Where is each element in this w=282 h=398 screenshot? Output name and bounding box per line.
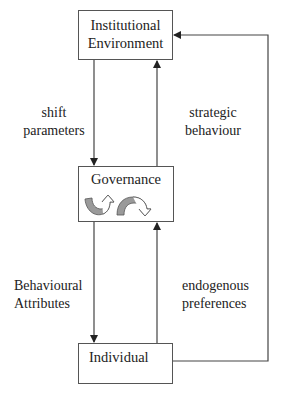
curved-arrow-up-icon xyxy=(85,195,114,215)
edge-label-strategic-behaviour: strategic behaviour xyxy=(172,104,254,139)
edge-label-shift-line1: shift xyxy=(18,104,90,121)
edge-label-behavioural-attributes: Behavioural Attributes xyxy=(14,277,94,312)
edge-label-strategic-line1: strategic xyxy=(172,104,254,121)
edge-label-endogenous-line2: preferences xyxy=(182,295,264,312)
node-institutional-line1: Institutional xyxy=(79,17,172,34)
edge-label-shift-parameters: shift parameters xyxy=(18,104,90,139)
arrow-feedback-loop xyxy=(173,35,268,361)
edge-label-behavioural-line1: Behavioural xyxy=(14,277,94,294)
node-governance: Governance xyxy=(78,166,174,222)
node-institutional-line2: Environment xyxy=(79,35,172,52)
edge-label-endogenous-preferences: endogenous preferences xyxy=(182,277,264,312)
node-institutional-environment: Institutional Environment xyxy=(78,10,173,60)
edge-label-shift-line2: parameters xyxy=(18,122,90,139)
node-individual-label: Individual xyxy=(89,349,172,366)
node-individual: Individual xyxy=(78,343,173,384)
edge-label-strategic-line2: behaviour xyxy=(172,122,254,139)
edge-label-behavioural-line2: Attributes xyxy=(14,295,94,312)
edge-label-endogenous-line1: endogenous xyxy=(182,277,264,294)
curved-arrow-over-icon xyxy=(117,197,151,216)
